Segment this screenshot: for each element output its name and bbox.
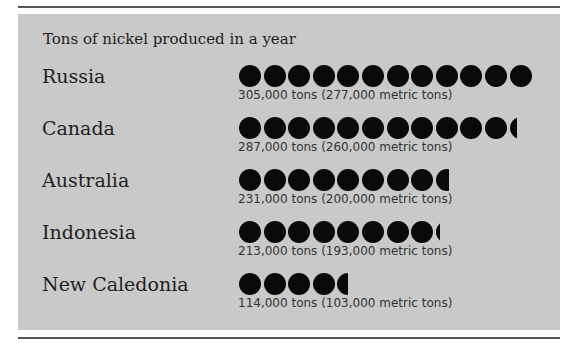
nickel-unit-icon <box>337 65 359 87</box>
row-new-caledonia: New Caledonia 114,000 tons (103,000 metr… <box>18 272 560 322</box>
nickel-partial-unit-icon <box>337 273 348 295</box>
dot-bar <box>239 65 534 87</box>
nickel-unit-icon <box>239 273 261 295</box>
nickel-partial-unit-icon <box>436 169 449 191</box>
top-rule <box>18 6 560 8</box>
country-label: Canada <box>42 117 115 139</box>
nickel-unit-icon <box>337 117 359 139</box>
nickel-partial-unit-icon <box>436 221 440 243</box>
nickel-unit-icon <box>313 117 335 139</box>
nickel-unit-icon <box>411 65 433 87</box>
nickel-unit-icon <box>460 117 482 139</box>
nickel-unit-icon <box>337 221 359 243</box>
amount-label: 231,000 tons (200,000 metric tons) <box>238 192 452 206</box>
nickel-unit-icon <box>288 273 310 295</box>
bottom-rule <box>18 337 560 339</box>
nickel-unit-icon <box>239 117 261 139</box>
nickel-unit-icon <box>264 65 286 87</box>
nickel-unit-icon <box>239 221 261 243</box>
country-label: New Caledonia <box>42 273 189 295</box>
nickel-unit-icon <box>313 221 335 243</box>
nickel-unit-icon <box>264 273 286 295</box>
nickel-unit-icon <box>411 221 433 243</box>
chart-panel: Tons of nickel produced in a year Russia… <box>18 14 560 330</box>
nickel-unit-icon <box>387 169 409 191</box>
nickel-unit-icon <box>411 117 433 139</box>
nickel-unit-icon <box>264 117 286 139</box>
nickel-unit-icon <box>362 221 384 243</box>
country-label: Russia <box>42 65 105 87</box>
dot-bar <box>239 169 449 191</box>
dot-bar <box>239 117 517 139</box>
nickel-unit-icon <box>460 65 482 87</box>
nickel-unit-icon <box>313 65 335 87</box>
nickel-unit-icon <box>362 117 384 139</box>
nickel-unit-icon <box>288 117 310 139</box>
row-russia: Russia 305,000 tons (277,000 metric tons… <box>18 64 560 114</box>
nickel-unit-icon <box>264 169 286 191</box>
nickel-unit-icon <box>313 273 335 295</box>
nickel-unit-icon <box>264 221 286 243</box>
chart-title: Tons of nickel produced in a year <box>43 30 296 48</box>
row-canada: Canada 287,000 tons (260,000 metric tons… <box>18 116 560 166</box>
amount-label: 305,000 tons (277,000 metric tons) <box>238 88 452 102</box>
nickel-unit-icon <box>485 117 507 139</box>
nickel-unit-icon <box>239 169 261 191</box>
nickel-unit-icon <box>387 221 409 243</box>
row-australia: Australia 231,000 tons (200,000 metric t… <box>18 168 560 218</box>
dot-bar <box>239 273 348 295</box>
nickel-unit-icon <box>239 65 261 87</box>
nickel-unit-icon <box>436 65 458 87</box>
nickel-unit-icon <box>436 117 458 139</box>
country-label: Indonesia <box>42 221 136 243</box>
amount-label: 213,000 tons (193,000 metric tons) <box>238 244 452 258</box>
nickel-unit-icon <box>313 169 335 191</box>
nickel-partial-unit-icon <box>510 117 517 139</box>
dot-bar <box>239 221 440 243</box>
nickel-unit-icon <box>510 65 532 87</box>
nickel-unit-icon <box>288 221 310 243</box>
nickel-unit-icon <box>485 65 507 87</box>
nickel-unit-icon <box>387 117 409 139</box>
nickel-unit-icon <box>288 65 310 87</box>
country-label: Australia <box>42 169 129 191</box>
amount-label: 114,000 tons (103,000 metric tons) <box>238 296 452 310</box>
nickel-unit-icon <box>362 65 384 87</box>
nickel-unit-icon <box>387 65 409 87</box>
amount-label: 287,000 tons (260,000 metric tons) <box>238 140 452 154</box>
nickel-unit-icon <box>288 169 310 191</box>
nickel-unit-icon <box>411 169 433 191</box>
nickel-unit-icon <box>337 169 359 191</box>
row-indonesia: Indonesia 213,000 tons (193,000 metric t… <box>18 220 560 270</box>
nickel-unit-icon <box>362 169 384 191</box>
